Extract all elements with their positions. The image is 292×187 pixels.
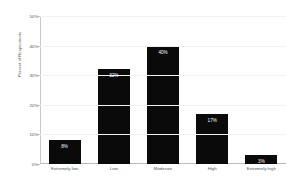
- bar-value-label: 3%: [258, 159, 265, 164]
- x-axis-tick-label: Extremely high: [247, 166, 276, 171]
- gridline: [40, 105, 286, 106]
- y-axis-tickmark: [37, 105, 40, 106]
- bar[interactable]: 17%: [196, 114, 228, 164]
- bar[interactable]: 3%: [245, 155, 277, 164]
- gridline: [40, 16, 286, 17]
- y-axis-tickmark: [37, 134, 40, 135]
- y-axis-tick-labels: 0%10%20%30%40%50%: [0, 0, 38, 187]
- y-axis-tickmark: [37, 16, 40, 17]
- x-axis-tick-label: Moderate: [154, 166, 173, 171]
- bar[interactable]: 8%: [49, 140, 81, 164]
- gridline: [40, 46, 286, 47]
- x-axis-tick-label: Extremely low: [51, 166, 78, 171]
- y-axis-tick-label: 10%: [16, 132, 38, 137]
- y-axis-tick-label: 0%: [16, 162, 38, 167]
- bar-slot: 40%: [138, 16, 187, 164]
- bar[interactable]: 32%: [98, 69, 130, 164]
- bars-layer: 8%32%40%17%3%: [40, 16, 286, 164]
- bar-value-label: 40%: [158, 50, 167, 55]
- bar-slot: 17%: [188, 16, 237, 164]
- gridline: [40, 134, 286, 135]
- y-axis-tick-label: 50%: [16, 14, 38, 19]
- y-axis-tick-label: 40%: [16, 43, 38, 48]
- gridline: [40, 75, 286, 76]
- y-axis-tickmark: [37, 46, 40, 47]
- y-axis-tick-label: 30%: [16, 73, 38, 78]
- y-axis-tickmark: [37, 164, 40, 165]
- x-axis-tick-labels: Extremely lowLowModerateHighExtremely hi…: [40, 166, 286, 178]
- bar-slot: 3%: [237, 16, 286, 164]
- plot-area: 8%32%40%17%3%: [40, 16, 286, 164]
- bar-chart: Percent of Respondents 0%10%20%30%40%50%…: [0, 0, 292, 187]
- bar-slot: 32%: [89, 16, 138, 164]
- y-axis-tick-label: 20%: [16, 102, 38, 107]
- bar-value-label: 8%: [61, 144, 68, 149]
- x-axis-tick-label: High: [208, 166, 217, 171]
- x-axis-tick-label: Low: [110, 166, 118, 171]
- y-axis-tickmark: [37, 75, 40, 76]
- bar-slot: 8%: [40, 16, 89, 164]
- bar-value-label: 17%: [208, 118, 217, 123]
